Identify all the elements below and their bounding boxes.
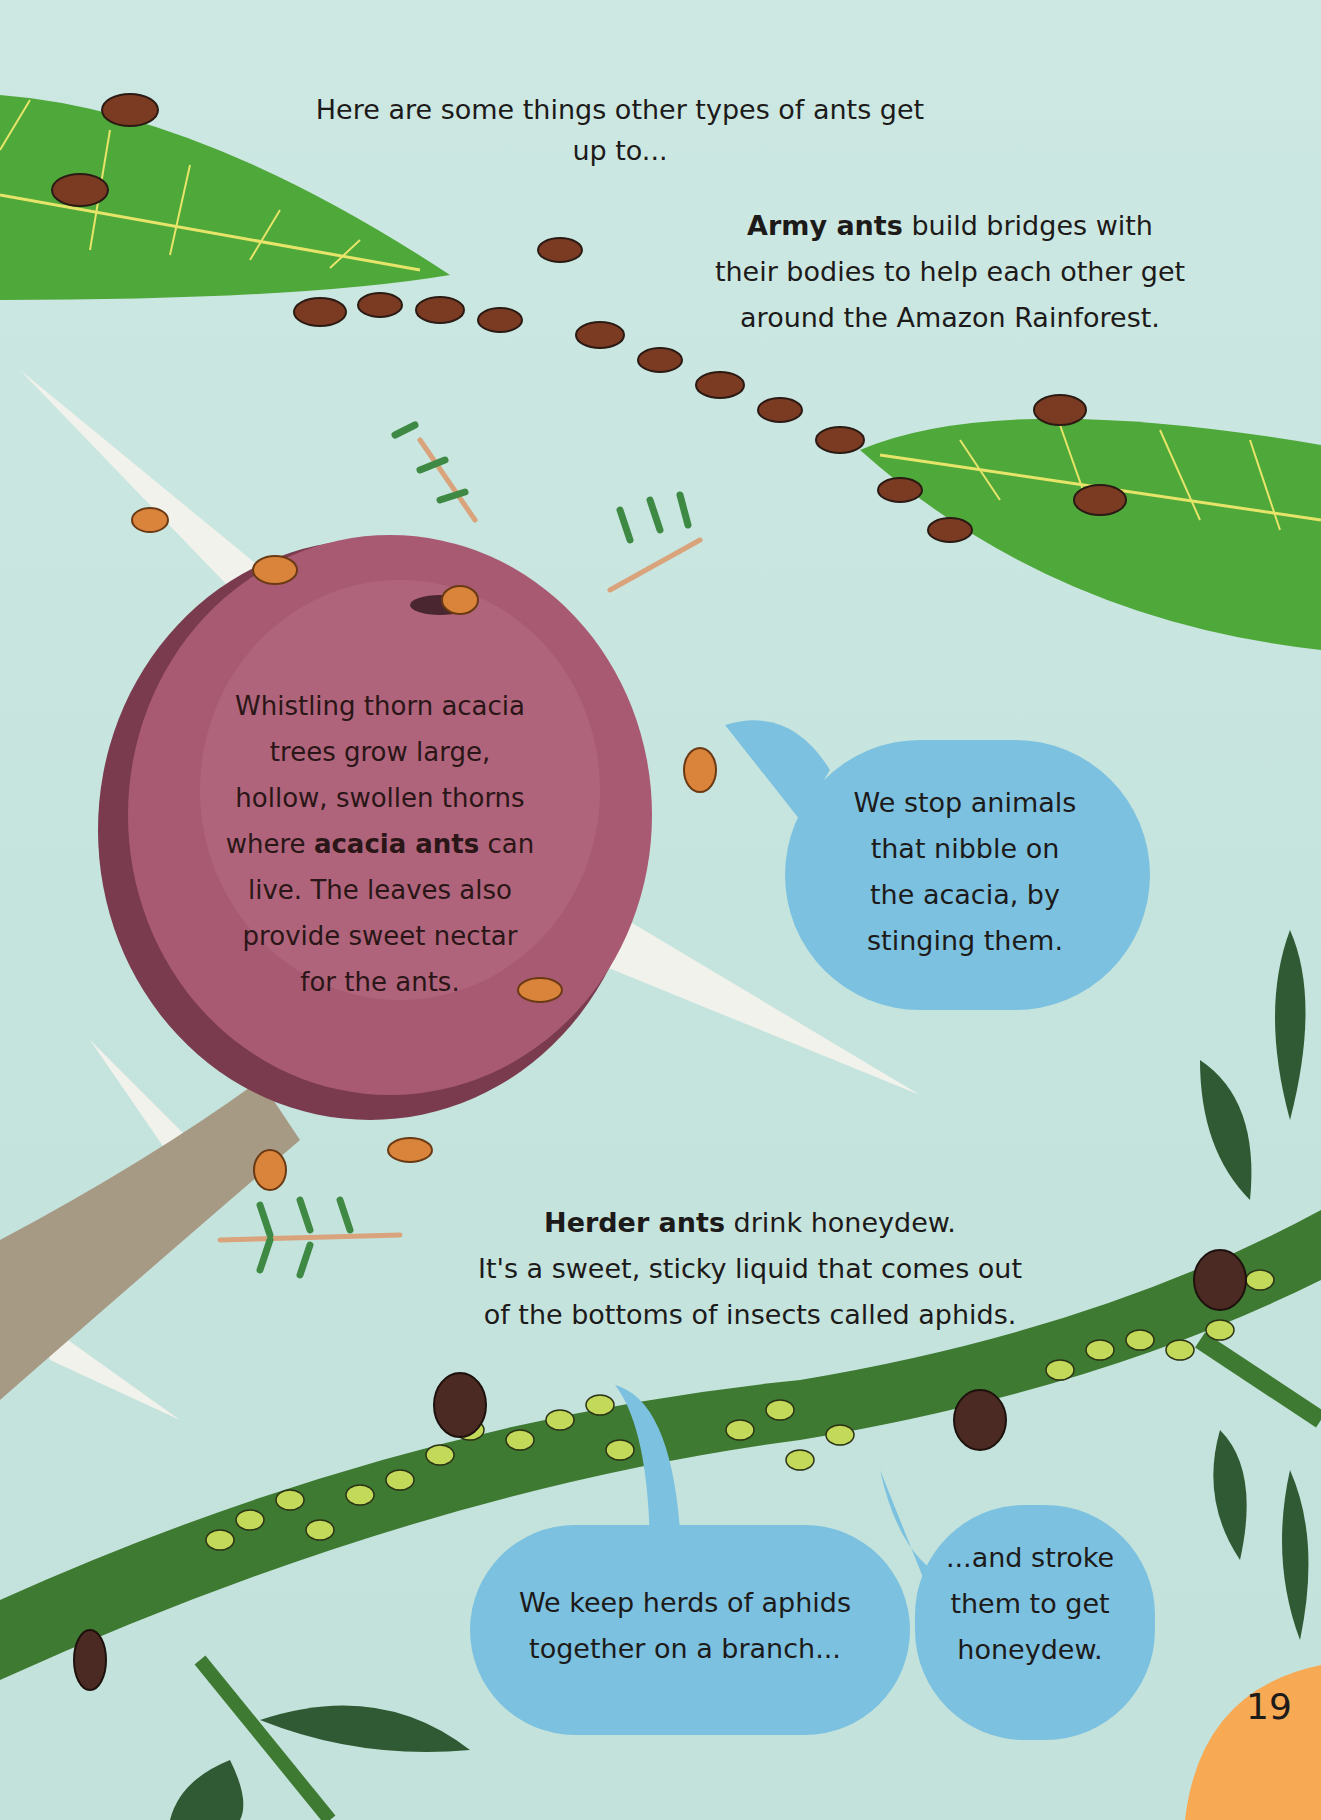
acacia-line-1: Whistling thorn acacia	[205, 683, 555, 729]
acacia-line-3: hollow, swollen thorns	[205, 775, 555, 821]
herder-line-3: of the bottoms of insects called aphids.	[460, 1292, 1040, 1338]
bottom-left-leaves-illustration	[170, 1660, 470, 1820]
acacia-line-4: where acacia ants can	[205, 821, 555, 867]
herder-ants-bold: Herder ants	[544, 1207, 725, 1238]
book-page: Here are some things other types of ants…	[0, 0, 1321, 1820]
herder-ants-caption: Herder ants drink honeydew. It's a sweet…	[460, 1200, 1040, 1338]
acacia-line-5: live. The leaves also	[205, 867, 555, 913]
herder-speech-bubble-2-text: ...and stroke them to get honeydew.	[920, 1535, 1140, 1673]
page-number: 19	[1246, 1686, 1292, 1727]
army-ants-line-1-text: build bridges with	[903, 210, 1153, 241]
acacia-ants-bold: acacia ants	[314, 829, 479, 859]
herds-line-2: together on a branch...	[480, 1626, 890, 1672]
army-ants-caption: Army ants build bridges with their bodie…	[700, 203, 1200, 341]
acacia-speech-bubble-text: We stop animals that nibble on the acaci…	[800, 780, 1130, 964]
stroke-line-2: them to get	[920, 1581, 1140, 1627]
army-ants-line-1: Army ants build bridges with	[700, 203, 1200, 249]
stroke-line-1: ...and stroke	[920, 1535, 1140, 1581]
acacia-line-6: provide sweet nectar	[205, 913, 555, 959]
intro-text: Here are some things other types of ants…	[300, 90, 940, 171]
herder-line-1-text: drink honeydew.	[725, 1207, 956, 1238]
sting-line-1: We stop animals	[800, 780, 1130, 826]
herder-line-2: It's a sweet, sticky liquid that comes o…	[460, 1246, 1040, 1292]
acacia-line-4-pre: where	[226, 829, 314, 859]
herder-line-1: Herder ants drink honeydew.	[460, 1200, 1040, 1246]
sting-line-3: the acacia, by	[800, 872, 1130, 918]
herder-speech-bubble-1-text: We keep herds of aphids together on a br…	[480, 1580, 890, 1672]
herds-line-1: We keep herds of aphids	[480, 1580, 890, 1626]
branch-twig	[1200, 1340, 1321, 1420]
stroke-line-3: honeydew.	[920, 1627, 1140, 1673]
army-ants-line-3: around the Amazon Rainforest.	[700, 295, 1200, 341]
sting-line-4: stinging them.	[800, 918, 1130, 964]
acacia-line-2: trees grow large,	[205, 729, 555, 775]
acacia-line-7: for the ants.	[205, 959, 555, 1005]
sting-line-2: that nibble on	[800, 826, 1130, 872]
army-ants-line-2: their bodies to help each other get	[700, 249, 1200, 295]
army-ants-bold: Army ants	[747, 210, 903, 241]
acacia-line-4-post: can	[479, 829, 534, 859]
acacia-caption: Whistling thorn acacia trees grow large,…	[205, 683, 555, 1005]
